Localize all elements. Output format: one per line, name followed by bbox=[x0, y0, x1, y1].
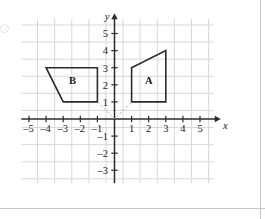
grid-lines bbox=[21, 19, 213, 183]
x-tick-label: 5 bbox=[197, 123, 202, 134]
page-rule-bottom bbox=[0, 208, 265, 209]
page-edge-mark bbox=[0, 24, 9, 33]
x-tick-label: –4 bbox=[39, 123, 51, 134]
y-tick-label: 4 bbox=[103, 45, 109, 56]
y-tick-label: –3 bbox=[97, 165, 109, 176]
shape-label-b: B bbox=[69, 75, 76, 86]
x-tick-label: –5 bbox=[22, 123, 34, 134]
x-tick-label: –3 bbox=[56, 123, 68, 134]
x-axis-arrowhead bbox=[215, 116, 221, 122]
x-tick-label: 1 bbox=[129, 123, 134, 134]
axes bbox=[21, 13, 220, 183]
page-rule-right bbox=[260, 0, 261, 219]
y-axis-arrowhead bbox=[111, 13, 117, 19]
x-tick-label: 4 bbox=[180, 123, 186, 134]
y-axis-name: y bbox=[104, 11, 110, 22]
shape-label-a: A bbox=[145, 75, 153, 86]
y-tick-label: 3 bbox=[103, 63, 108, 74]
coordinate-plane-figure: –5–4–3–2–11234554321–1–2–3xyAB bbox=[0, 0, 265, 219]
y-tick-label: –1 bbox=[97, 131, 109, 142]
y-tick-label: –2 bbox=[97, 148, 109, 159]
x-tick-label: 2 bbox=[146, 123, 151, 134]
y-tick-label: 5 bbox=[103, 28, 108, 39]
coordinate-plane-svg: –5–4–3–2–11234554321–1–2–3xyAB bbox=[0, 0, 265, 219]
x-tick-label: –2 bbox=[74, 123, 86, 134]
y-tick-label: 2 bbox=[103, 80, 108, 91]
x-axis-name: x bbox=[222, 120, 228, 131]
x-tick-label: 3 bbox=[163, 123, 168, 134]
y-tick-label: 1 bbox=[103, 97, 108, 108]
